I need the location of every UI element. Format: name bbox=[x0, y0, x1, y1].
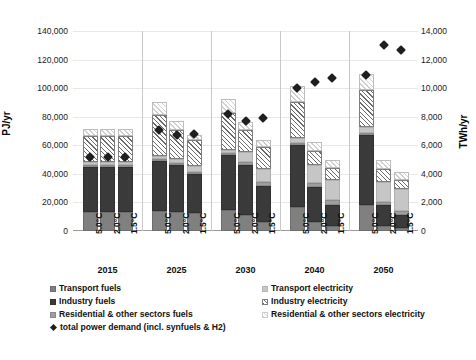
x-tick-2025-2.0C: 2.0°C bbox=[181, 213, 191, 234]
bar-segment-transport-electricity bbox=[118, 162, 133, 164]
x-tick-2025-5.0C: 5.0°C bbox=[163, 213, 173, 234]
x-group-label-2015: 2015 bbox=[73, 265, 142, 275]
group-separator bbox=[142, 31, 143, 231]
x-group-label-2025: 2025 bbox=[142, 265, 211, 275]
bar-segment-industry-electricity bbox=[307, 151, 322, 165]
y-axis-right-ticks: 14,000 12,000 10,000 8,000 6,000 4,000 2… bbox=[421, 31, 469, 231]
bar-segment-transport-electricity bbox=[221, 150, 236, 154]
bar-segment-industry-fuels bbox=[83, 167, 98, 213]
bar-segment-transport-electricity bbox=[376, 182, 391, 202]
bar-2030-5.0C bbox=[221, 31, 236, 231]
bar-segment-industry-electricity bbox=[187, 140, 202, 166]
plot-area bbox=[73, 31, 418, 231]
transport-fuels-swatch-icon bbox=[50, 286, 56, 292]
x-tick-2015-2.0C: 2.0°C bbox=[112, 213, 122, 234]
bar-segment-industry-electricity bbox=[394, 180, 409, 189]
bar-segment-industry-fuels bbox=[118, 167, 133, 213]
bar-segment-industry-fuels bbox=[152, 161, 167, 211]
bar-2050-5.0C bbox=[359, 31, 374, 231]
bar-2015-1.5C bbox=[118, 31, 133, 231]
chart-root: PJ/yr 140,000 120,000 100,000 80,000 60,… bbox=[0, 0, 476, 360]
y-tick-right-8000: 8,000 bbox=[421, 112, 442, 121]
bar-segment-residential-fuels bbox=[100, 165, 115, 167]
y-tick-left-0: 0 bbox=[63, 227, 68, 236]
bar-segment-residential-electricity bbox=[307, 142, 322, 151]
chart-legend: Transport fuels Industry fuels Residenti… bbox=[50, 283, 470, 333]
bar-segment-industry-electricity bbox=[359, 90, 374, 126]
bar-segment-industry-fuels bbox=[290, 145, 305, 207]
legend-label: total power demand (incl. synfuels & H2) bbox=[60, 322, 226, 332]
y-tick-right-2000: 2,000 bbox=[421, 198, 442, 207]
legend-label: Transport electricity bbox=[271, 283, 353, 293]
x-tick-2050-5.0C: 5.0°C bbox=[370, 213, 380, 234]
industry-electricity-swatch-icon bbox=[262, 299, 268, 305]
bar-segment-transport-electricity bbox=[100, 162, 115, 164]
bar-segment-industry-electricity bbox=[325, 168, 340, 179]
transport-electricity-swatch-icon bbox=[262, 286, 268, 292]
bar-segment-residential-electricity bbox=[83, 129, 98, 136]
y-tick-right-6000: 6,000 bbox=[421, 141, 442, 150]
legend-item-industry-electricity: Industry electricity bbox=[262, 296, 347, 306]
x-tick-2040-1.5C: 1.5°C bbox=[336, 213, 346, 234]
bar-segment-residential-electricity bbox=[256, 140, 271, 147]
bar-2030-1.5C bbox=[256, 31, 271, 231]
bar-segment-industry-fuels bbox=[169, 165, 184, 211]
group-separator bbox=[211, 31, 212, 231]
bar-segment-residential-fuels bbox=[256, 182, 271, 186]
bar-segment-residential-fuels bbox=[359, 133, 374, 135]
bar-2015-2.0C bbox=[100, 31, 115, 231]
legend-item-residential-electricity: Residential & other sectors electricity bbox=[262, 309, 425, 319]
bar-segment-transport-electricity bbox=[238, 152, 253, 161]
bar-segment-residential-fuels bbox=[376, 202, 391, 206]
bar-segment-residential-electricity bbox=[118, 129, 133, 136]
bar-2040-1.5C bbox=[325, 31, 340, 231]
bar-segment-industry-fuels bbox=[359, 135, 374, 205]
bar-segment-transport-electricity bbox=[152, 156, 167, 159]
y-tick-right-0: 0 bbox=[421, 227, 426, 236]
legend-item-transport-fuels: Transport fuels bbox=[50, 283, 121, 293]
x-tick-2030-5.0C: 5.0°C bbox=[232, 213, 242, 234]
x-tick-2025-1.5C: 1.5°C bbox=[198, 213, 208, 234]
legend-item-total-power-demand: total power demand (incl. synfuels & H2) bbox=[50, 322, 226, 332]
bar-segment-residential-fuels bbox=[169, 163, 184, 165]
bar-segment-industry-electricity bbox=[152, 115, 167, 156]
y-tick-left-80000: 80,000 bbox=[42, 112, 68, 121]
bar-segment-industry-fuels bbox=[221, 155, 236, 209]
bar-segment-residential-electricity bbox=[152, 102, 167, 115]
bar-segment-industry-electricity bbox=[376, 169, 391, 182]
bar-segment-residential-fuels bbox=[307, 183, 322, 187]
legend-label: Transport fuels bbox=[59, 283, 121, 293]
bar-segment-industry-electricity bbox=[290, 102, 305, 138]
bar-segment-industry-fuels bbox=[187, 174, 202, 213]
x-tick-2030-2.0C: 2.0°C bbox=[250, 213, 260, 234]
bar-segment-residential-electricity bbox=[325, 160, 340, 168]
bar-segment-industry-electricity bbox=[256, 147, 271, 168]
bar-segment-transport-electricity bbox=[187, 166, 202, 172]
y-tick-left-120000: 120,000 bbox=[37, 55, 68, 64]
bar-2015-5.0C bbox=[83, 31, 98, 231]
bar-2050-2.0C bbox=[376, 31, 391, 231]
bar-segment-transport-electricity bbox=[83, 162, 98, 164]
bar-segment-industry-electricity bbox=[238, 130, 253, 152]
bar-segment-residential-fuels bbox=[290, 143, 305, 145]
bar-segment-transport-electricity bbox=[256, 169, 271, 183]
bar-segment-residential-fuels bbox=[221, 153, 236, 155]
group-separator bbox=[349, 31, 350, 231]
x-group-label-2050: 2050 bbox=[349, 265, 418, 275]
residential-fuels-swatch-icon bbox=[50, 312, 56, 318]
y-tick-right-10000: 10,000 bbox=[421, 84, 447, 93]
legend-item-residential-fuels: Residential & other sectors fuels bbox=[50, 309, 193, 319]
x-tick-2050-1.5C: 1.5°C bbox=[405, 213, 415, 234]
bar-2040-5.0C bbox=[290, 31, 305, 231]
y-tick-left-60000: 60,000 bbox=[42, 141, 68, 150]
bar-segment-residential-fuels bbox=[118, 165, 133, 167]
bar-segment-transport-electricity bbox=[169, 159, 184, 163]
bar-segment-transport-electricity bbox=[290, 138, 305, 143]
bar-segment-industry-fuels bbox=[238, 165, 253, 214]
legend-label: Residential & other sectors fuels bbox=[59, 309, 193, 319]
caption-strip bbox=[0, 344, 476, 360]
y-tick-left-140000: 140,000 bbox=[37, 27, 68, 36]
y-tick-left-40000: 40,000 bbox=[42, 169, 68, 178]
total-power-diamond-icon bbox=[50, 324, 57, 331]
legend-item-transport-electricity: Transport electricity bbox=[262, 283, 353, 293]
